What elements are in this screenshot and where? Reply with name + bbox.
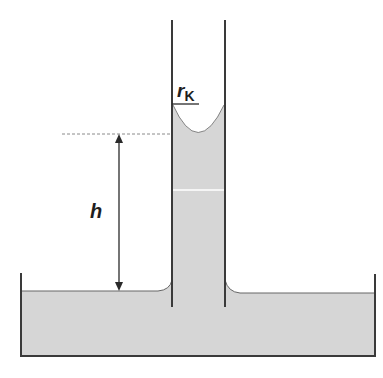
capillary-diagram xyxy=(0,0,383,378)
surface-left xyxy=(22,280,172,291)
surface-right xyxy=(225,280,374,293)
height-label: h xyxy=(90,200,102,223)
arrow-head-down-icon xyxy=(115,282,123,291)
radius-label-subscript: K xyxy=(184,88,194,104)
radius-label: rK xyxy=(177,80,195,102)
reservoir-liquid-right xyxy=(225,280,374,356)
arrow-head-up-icon xyxy=(115,134,123,143)
tube-liquid-column xyxy=(173,105,224,308)
